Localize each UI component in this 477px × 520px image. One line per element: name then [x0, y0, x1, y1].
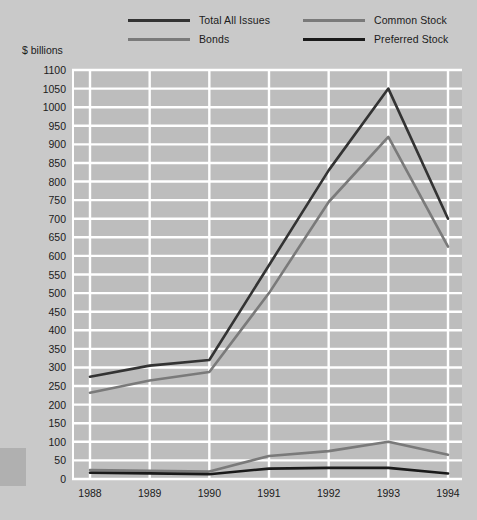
y-axis-tick-label: 550 — [20, 269, 66, 280]
x-axis-tick-label: 1990 — [198, 487, 221, 499]
y-axis-tick-label: 500 — [20, 288, 66, 299]
legend-label-bonds: Bonds — [199, 33, 229, 45]
legend-label-common-stock: Common Stock — [374, 14, 447, 26]
legend-item-total-all-issues: Total All Issues — [128, 12, 270, 28]
legend-swatch-total-all-issues — [128, 19, 190, 22]
chart-legend: Total All Issues Bonds Common Stock Pref… — [128, 12, 468, 52]
x-axis-tick-label: 1991 — [257, 487, 280, 499]
y-axis-tick-label: 50 — [20, 455, 66, 466]
x-axis-tick-label: 1988 — [78, 487, 101, 499]
y-axis-tick-label: 700 — [20, 213, 66, 224]
y-axis-tick-label: 450 — [20, 306, 66, 317]
y-axis-tick-label: 900 — [20, 139, 66, 150]
y-axis-tick-label: 150 — [20, 418, 66, 429]
y-axis-tick-label: 1050 — [20, 83, 66, 94]
x-axis-tick-label: 1993 — [377, 487, 400, 499]
legend-label-preferred-stock: Preferred Stock — [374, 33, 448, 45]
x-axis-tick-labels: 1988198919901991199219931994 — [72, 487, 462, 503]
y-axis-tick-label: 1100 — [20, 65, 66, 76]
y-axis-tick-label: 200 — [20, 399, 66, 410]
chart-root: Total All Issues Bonds Common Stock Pref… — [0, 0, 477, 520]
y-axis-tick-label: 800 — [20, 176, 66, 187]
legend-label-total-all-issues: Total All Issues — [199, 14, 270, 26]
y-axis-tick-label: 100 — [20, 437, 66, 448]
legend-item-common-stock: Common Stock — [303, 12, 447, 28]
y-axis-title: $ billions — [22, 44, 63, 56]
y-axis-tick-label: 0 — [20, 474, 66, 485]
legend-item-bonds: Bonds — [128, 31, 229, 47]
y-axis-tick-label: 850 — [20, 158, 66, 169]
x-axis-tick-label: 1992 — [317, 487, 340, 499]
y-axis-tick-label: 600 — [20, 251, 66, 262]
legend-swatch-common-stock — [303, 19, 365, 22]
y-axis-tick-label: 950 — [20, 121, 66, 132]
y-axis-tick-label: 250 — [20, 381, 66, 392]
x-axis-tick-label: 1994 — [436, 487, 459, 499]
y-axis-tick-labels: 0501001502002503003504004505005506006507… — [18, 70, 66, 479]
legend-item-preferred-stock: Preferred Stock — [303, 31, 448, 47]
x-axis-tick-label: 1989 — [138, 487, 161, 499]
plot-area-wrapper — [72, 70, 462, 479]
y-axis-tick-label: 1000 — [20, 102, 66, 113]
legend-swatch-preferred-stock — [303, 38, 365, 41]
y-axis-tick-label: 300 — [20, 362, 66, 373]
y-axis-tick-label: 750 — [20, 195, 66, 206]
gridlines — [72, 70, 462, 479]
y-axis-tick-label: 350 — [20, 344, 66, 355]
y-axis-tick-label: 650 — [20, 232, 66, 243]
plot-svg — [72, 70, 462, 479]
legend-swatch-bonds — [128, 38, 190, 41]
y-axis-tick-label: 400 — [20, 325, 66, 336]
